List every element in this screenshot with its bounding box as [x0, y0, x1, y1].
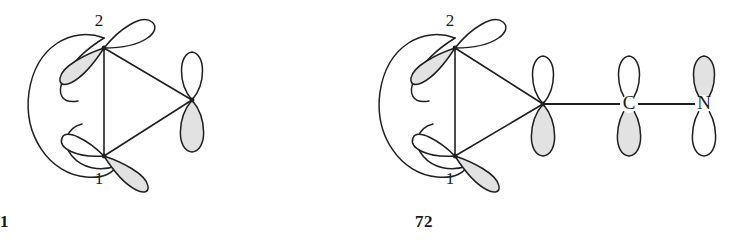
structure-72-caption: 72 — [236, 212, 612, 232]
lobe-72-v2-lower-left-shaded — [411, 48, 455, 84]
lobe-71-v1-upper-left-empty — [61, 134, 104, 156]
position-label-72-one: 1 — [446, 169, 455, 188]
structure-72-drawing: C N 2 1 — [376, 0, 752, 240]
bond-72-v2-vright — [455, 48, 543, 104]
bond-71-v2-vright — [104, 48, 192, 100]
vertex-dot-72-v1 — [453, 154, 458, 159]
figure-root: 2 1 71 — [0, 0, 752, 240]
structure-72: C N 2 1 72 — [376, 0, 752, 240]
position-label-72-two: 2 — [446, 11, 455, 30]
bond-71-v1-vright — [104, 100, 192, 156]
structure-71-caption: 71 — [0, 212, 188, 232]
atom-label-nitrogen: N — [697, 92, 711, 113]
lobe-72-v1-upper-left-empty — [412, 134, 455, 156]
lobe-71-v2-lower-left-shaded — [60, 48, 104, 84]
bond-72-v1-vright — [455, 104, 543, 156]
vertex-dot-72-vright — [541, 102, 546, 107]
lobe-71-v2-upper-right-empty — [104, 20, 155, 48]
lobe-71-vright-top-empty — [182, 52, 203, 100]
vertex-dot-72-v2 — [453, 46, 458, 51]
structure-71-drawing: 2 1 — [0, 0, 376, 240]
atom-label-carbon: C — [623, 92, 636, 113]
lobe-72-vright-bottom-shaded — [531, 104, 554, 156]
vertex-dot-71-v2 — [102, 46, 107, 51]
structure-71: 2 1 71 — [0, 0, 376, 240]
position-label-71-one: 1 — [95, 169, 104, 188]
position-label-71-two: 2 — [95, 11, 104, 30]
vertex-dot-71-vright — [190, 98, 195, 103]
lobe-72-vright-top-empty — [533, 56, 554, 104]
lobe-71-vright-bottom-shaded — [180, 100, 203, 152]
lobe-71-v1-lower-right-shaded — [104, 156, 148, 192]
lobe-72-v1-lower-right-shaded — [455, 156, 499, 192]
lobe-72-v2-upper-right-empty — [455, 20, 506, 48]
vertex-dot-71-v1 — [102, 154, 107, 159]
